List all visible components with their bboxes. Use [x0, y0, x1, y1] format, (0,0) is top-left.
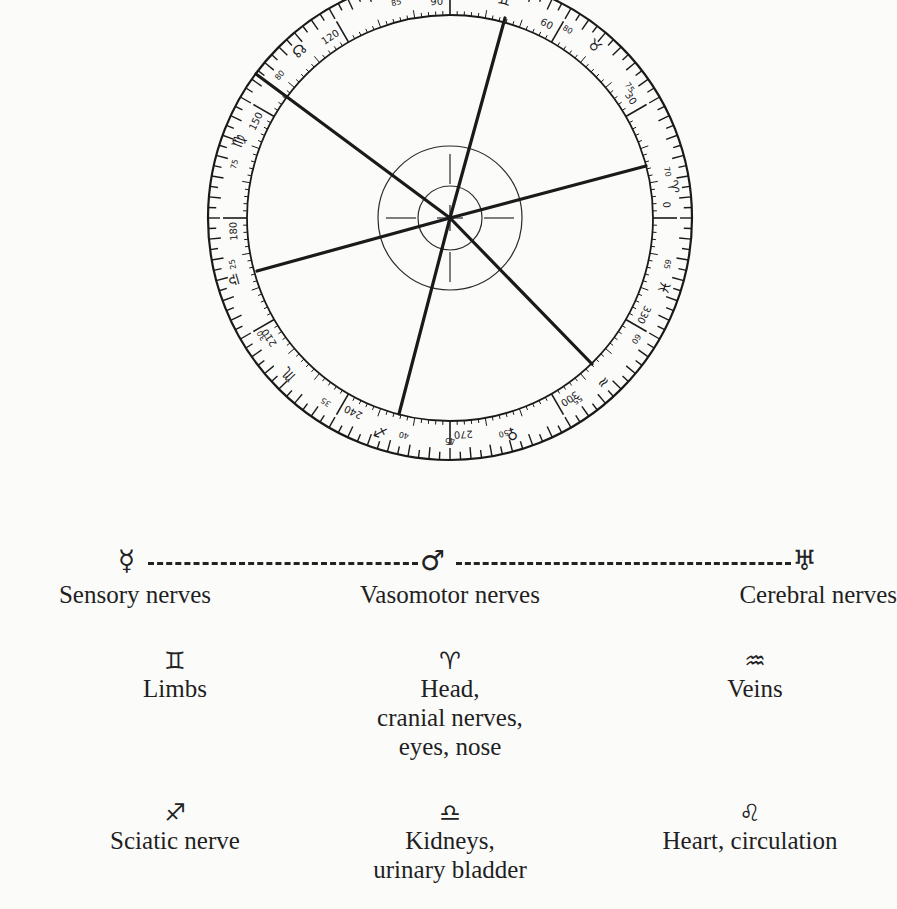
outer-scale-label: 80 [561, 23, 574, 36]
ascending-node-icon: ☊ [288, 40, 310, 62]
outer-scale-label: 45 [445, 436, 455, 445]
planet-row: ☿ ♂ ♅ [0, 546, 897, 576]
outer-scale-label: 70 [662, 166, 673, 178]
outer-scale-label: 60 [630, 332, 643, 345]
sign-label: Limbs [143, 675, 207, 702]
taurus-icon: ♉ [584, 34, 606, 56]
label-vasomotor-nerves: Vasomotor nerves [310, 580, 590, 609]
dashed-connector [148, 562, 418, 565]
venus-icon: ♀ [504, 424, 520, 444]
mercury-icon: ☿ [118, 546, 135, 576]
line-aries [450, 166, 646, 218]
label-sensory-nerves: Sensory nerves [0, 580, 270, 609]
uranus-icon: ♅ [792, 546, 817, 576]
inner-scale-label: 60 [539, 16, 555, 32]
inner-scale-label: 90 [430, 0, 443, 7]
inner-scale-label: 330 [635, 304, 653, 326]
sign-label: urinary bladder [373, 856, 526, 883]
outer-scale-label: 85 [390, 0, 402, 8]
line-ascending-node [256, 74, 450, 218]
pointer-lines [256, 18, 646, 414]
scorpio-icon: ♏ [277, 363, 300, 386]
line-aquarius [450, 218, 592, 364]
sign-label: Heart, circulation [663, 827, 838, 854]
aquarius-icon: ♒ [645, 648, 865, 674]
inner-scale-label: 240 [342, 403, 364, 421]
sign-aries-head: ♈ Head, cranial nerves, eyes, nose [340, 648, 560, 761]
virgo-icon: ♍ [228, 132, 250, 151]
outer-scale-label: 35 [319, 395, 332, 408]
outer-scale-label: 65 [662, 258, 673, 270]
libra-icon: ♎ [340, 800, 560, 826]
sign-gemini-limbs: ♊ Limbs [75, 648, 275, 703]
label-cerebral-nerves: Cerebral nerves [640, 580, 897, 609]
astrological-dial: 0306090120150180210240270300330707580858… [0, 0, 897, 480]
sign-label: Veins [727, 675, 783, 702]
gemini-icon: ♊ [75, 648, 275, 674]
line-gemini [450, 18, 505, 218]
line-sagittarius [399, 218, 450, 414]
outer-scale-label: 80 [273, 69, 286, 83]
sagittarius-icon: ♐ [371, 421, 389, 442]
aries-icon: ♈ [340, 648, 560, 674]
outer-scale-label: 40 [398, 430, 410, 441]
aquarius-icon: ≈ [593, 372, 614, 394]
sign-label: Head, [421, 675, 480, 702]
pisces-icon: ♓ [653, 278, 674, 296]
mars-icon: ♂ [420, 546, 445, 576]
sign-libra-kidneys: ♎ Kidneys, urinary bladder [340, 800, 560, 884]
sign-label: Kidneys, [405, 827, 495, 854]
outer-scale-label: 75 [229, 158, 240, 170]
dashed-connector [456, 562, 791, 565]
leo-icon: ♌ [620, 800, 880, 826]
aries-icon: ♈ [663, 179, 683, 195]
inner-scale-label: 150 [247, 110, 265, 132]
inner-scale-label: 120 [319, 27, 341, 47]
sign-aquarius-veins: ♒ Veins [645, 648, 865, 703]
cancer-icon: ♋ [411, 0, 427, 5]
sign-leo-heart: ♌ Heart, circulation [620, 800, 880, 855]
sign-label: eyes, nose [399, 733, 502, 760]
sign-label: Sciatic nerve [110, 827, 240, 854]
inner-scale-label: 0 [661, 201, 672, 208]
libra-icon: ♎ [223, 271, 244, 289]
sign-sagittarius-sciatic: ♐ Sciatic nerve [70, 800, 280, 855]
line-libra [257, 218, 450, 271]
gemini-icon: ♊ [496, 0, 513, 10]
sagittarius-icon: ♐ [70, 800, 280, 826]
sign-label: cranial nerves, [377, 704, 523, 731]
inner-scale-label: 270 [453, 429, 473, 441]
outer-scale-label: 25 [227, 258, 238, 270]
inner-scale-label: 180 [227, 221, 239, 241]
